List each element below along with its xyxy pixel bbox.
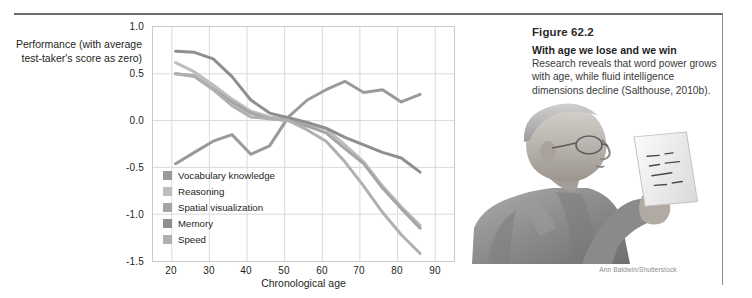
figure-container: Performance (with average test-taker's s…: [0, 0, 752, 298]
legend-label: Speed: [178, 234, 206, 245]
legend-swatch-icon: [163, 187, 172, 196]
legend-item-memory: Memory: [163, 217, 275, 231]
x-tick-label-1: 30: [196, 265, 222, 276]
caption-lead: With age we lose and we win: [532, 44, 677, 56]
y-axis-title: Performance (with average test-taker's s…: [8, 38, 142, 65]
older-man-reading-photo: [470, 96, 716, 264]
right-divider-rule: [722, 13, 723, 285]
legend-swatch-icon: [163, 219, 172, 228]
x-tick-label-2: 40: [233, 265, 259, 276]
legend-label: Spatial visualization: [178, 202, 263, 213]
legend-label: Memory: [178, 218, 213, 229]
x-tick-label-5: 70: [346, 265, 372, 276]
chart-legend: Vocabulary knowledge Reasoning Spatial v…: [163, 168, 275, 247]
caption-body-text: Research reveals that word power grows w…: [532, 58, 717, 95]
ear-shape: [540, 141, 556, 163]
caption-text: With age we lose and we win Research rev…: [532, 44, 718, 97]
series-line-memory: [176, 51, 421, 172]
y-tick-label-3: -0.5: [104, 162, 144, 173]
legend-swatch-icon: [163, 171, 172, 180]
y-tick-label-5: -1.5: [104, 256, 144, 267]
y-tick-label-2: 0.0: [104, 115, 144, 126]
x-tick-label-4: 60: [309, 265, 335, 276]
x-tick-label-3: 50: [271, 265, 297, 276]
x-axis-title: Chronological age: [152, 277, 455, 289]
photo-credit: Ann Baldwin/Shutterstock: [558, 266, 718, 273]
legend-item-reasoning: Reasoning: [163, 184, 275, 198]
legend-item-spatial-visualization: Spatial visualization: [163, 200, 275, 214]
legend-swatch-icon: [163, 203, 172, 212]
y-tick-label-1: 0.5: [104, 68, 144, 79]
x-tick-label-7: 90: [422, 265, 448, 276]
figure-number: Figure 62.2: [532, 26, 718, 38]
y-tick-label-4: -1.0: [104, 209, 144, 220]
legend-item-speed: Speed: [163, 233, 275, 247]
legend-label: Reasoning: [178, 186, 224, 197]
legend-item-vocabulary-knowledge: Vocabulary knowledge: [163, 168, 275, 182]
line-chart: Performance (with average test-taker's s…: [0, 0, 470, 298]
legend-label: Vocabulary knowledge: [178, 170, 275, 181]
x-tick-label-6: 80: [384, 265, 410, 276]
figure-caption: Figure 62.2 With age we lose and we win …: [532, 26, 718, 97]
legend-swatch-icon: [163, 235, 172, 244]
x-tick-label-0: 20: [158, 265, 184, 276]
y-tick-label-0: 1.0: [104, 21, 144, 32]
